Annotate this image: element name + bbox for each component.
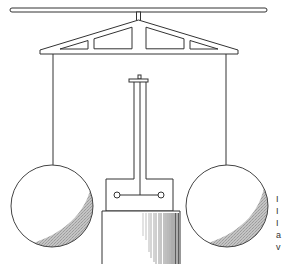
- caption-fragment: I: [276, 193, 279, 205]
- central-column: [134, 82, 146, 195]
- caption-fragment: a: [276, 229, 281, 241]
- left-sphere: [11, 165, 100, 260]
- caption-fragment: I: [276, 205, 279, 217]
- balance-diagram: [0, 0, 282, 264]
- column-cap: [129, 75, 148, 82]
- caption-fragment: I: [276, 217, 279, 229]
- right-sphere: [186, 165, 275, 260]
- right-pivot-ring: [158, 192, 164, 198]
- base-block: [102, 211, 180, 264]
- truss-frame: [40, 20, 238, 54]
- top-beam: [10, 8, 267, 12]
- left-pivot-ring: [114, 192, 120, 198]
- caption-fragment: v: [276, 241, 281, 253]
